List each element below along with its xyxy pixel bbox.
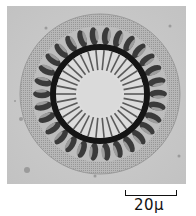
micrograph-image	[7, 6, 186, 184]
diatom-illustration	[7, 6, 186, 184]
scale-bar-label: 20µ	[134, 196, 174, 214]
